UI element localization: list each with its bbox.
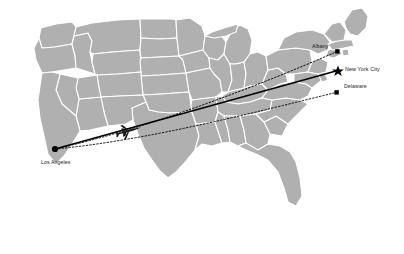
state-south-dakota	[140, 38, 179, 58]
square-marker-albany	[335, 49, 339, 53]
state-colorado	[97, 72, 143, 97]
circle-marker-los-angeles	[52, 146, 58, 152]
state-kansas	[141, 73, 189, 95]
star-marker-new-york-city	[332, 65, 344, 76]
us-states-layer	[34, 8, 368, 206]
city-label-new-york-city: New York City	[345, 67, 380, 72]
square-marker-delaware	[334, 90, 338, 94]
city-label-los-angeles: Los Angeles	[41, 160, 70, 165]
map-canvas: Los Angeles Albany New York City Delawar…	[0, 0, 404, 254]
us-map-svg	[0, 0, 404, 254]
city-label-albany: Albany	[312, 44, 328, 49]
state-wyoming	[92, 50, 141, 75]
state-rhode-island	[342, 49, 349, 56]
state-north-dakota	[140, 19, 177, 39]
state-florida	[238, 143, 302, 206]
state-texas	[132, 102, 199, 178]
state-maine	[344, 8, 368, 36]
city-label-delaware: Delaware	[344, 84, 367, 89]
state-utah	[76, 75, 101, 99]
